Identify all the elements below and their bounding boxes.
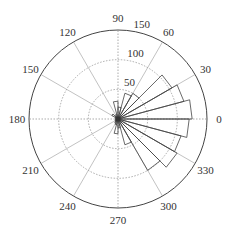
angle-label-210: 210: [22, 164, 39, 176]
spoke-240: [74, 119, 119, 196]
angle-label-180: 180: [9, 113, 26, 125]
bin-345-360: [118, 119, 189, 137]
angle-label-120: 120: [59, 26, 76, 38]
radial-label-50: 50: [124, 76, 136, 88]
angle-label-300: 300: [160, 200, 177, 212]
bin-315-330: [118, 119, 177, 167]
angle-label-240: 240: [59, 200, 76, 212]
angle-label-30: 30: [200, 63, 212, 75]
center-hub: [116, 117, 121, 122]
angle-label-60: 60: [163, 26, 175, 38]
radial-label-100: 100: [127, 47, 144, 59]
bars: [112, 75, 192, 170]
chart-canvas: 030609012015018021024027030033050100150: [0, 0, 230, 240]
spoke-150: [41, 75, 118, 120]
angle-label-0: 0: [216, 113, 222, 125]
angle-label-270: 270: [110, 214, 127, 226]
angle-label-90: 90: [113, 12, 125, 24]
angle-label-330: 330: [197, 164, 214, 176]
bin-300-315: [118, 119, 160, 170]
radial-label-150: 150: [134, 18, 151, 30]
spoke-210: [41, 119, 118, 164]
polar-histogram-chart: 030609012015018021024027030033050100150: [0, 0, 230, 240]
angle-label-150: 150: [22, 63, 39, 75]
spoke-120: [74, 42, 119, 119]
